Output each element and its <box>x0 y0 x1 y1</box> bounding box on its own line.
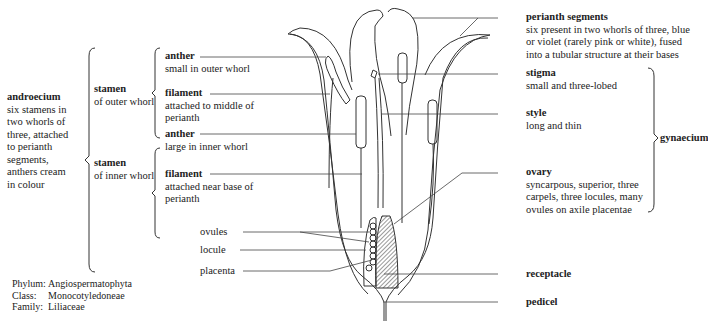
perianth-label: perianth segments six present in two who… <box>526 11 690 61</box>
gynaecium-bracket <box>648 68 658 212</box>
ovules-label: ovules <box>200 226 227 239</box>
receptacle-label: receptacle <box>526 268 571 281</box>
leader-perianth-2 <box>460 18 478 36</box>
perianth-left-outer <box>288 28 368 294</box>
stamen-outer-label: stamen of outer whorl <box>94 83 154 108</box>
androecium-label: androecium six stamens in two whorls of … <box>7 91 68 191</box>
style-label: style long and thin <box>526 107 581 132</box>
stamen-inner-label: stamen of inner whorl <box>94 157 154 182</box>
stigma <box>371 70 377 78</box>
locule-outline <box>364 217 376 286</box>
ovary <box>376 216 398 288</box>
outer-anther-right <box>428 100 437 144</box>
filament-inner-label: filament attached near base of perianth <box>165 168 253 206</box>
outer-anther-left <box>325 56 350 104</box>
locule-label: locule <box>200 244 226 257</box>
taxonomy-row-class: Class: Monocotyledoneae <box>12 290 132 302</box>
taxonomy-row-family: Family: Liliaceae <box>12 301 132 313</box>
perianth-center-right <box>388 8 418 135</box>
pedicel-label: pedicel <box>526 296 558 309</box>
perianth-right-outer <box>398 35 490 296</box>
taxonomy-block: Phylum: Angiospermatophyta Class: Monoco… <box>12 278 132 313</box>
androecium-title: androecium <box>7 91 68 104</box>
placenta-label: placenta <box>200 265 235 278</box>
ovary-label: ovary syncarpous, superior, three carpel… <box>526 166 643 216</box>
style <box>375 78 383 208</box>
anther-inner-label: anther large in inner whorl <box>165 128 248 153</box>
taxonomy-row-phylum: Phylum: Angiospermatophyta <box>12 278 132 290</box>
gynaecium-label: gynaecium <box>660 132 708 145</box>
inner-anther-center <box>398 53 407 83</box>
inner-anther-left <box>356 96 366 148</box>
leader-ovary <box>394 173 462 224</box>
filament-outer-label: filament attached to middle of perianth <box>165 87 254 125</box>
anther-outer-label: anther small in outer whorl <box>165 50 250 75</box>
stigma-label: stigma small and three-lobed <box>526 67 617 92</box>
